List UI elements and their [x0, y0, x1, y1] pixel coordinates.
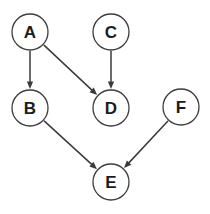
graph-edge-a-to-d [44, 45, 97, 95]
graph-node-c[interactable]: C [93, 14, 129, 50]
graph-node-d[interactable]: D [93, 90, 129, 126]
node-label-f: F [176, 98, 186, 117]
graph-node-e[interactable]: E [93, 164, 129, 200]
graph-edge-c-to-d [108, 52, 114, 90]
node-label-c: C [105, 23, 117, 42]
node-label-b: B [24, 99, 36, 118]
graph-edge-a-to-b [27, 52, 33, 90]
graph-diagram: ACBDFE [0, 0, 210, 214]
arrowhead-icon [108, 82, 114, 90]
graph-edge-b-to-e [44, 121, 97, 169]
graph-node-a[interactable]: A [12, 14, 48, 50]
node-layer: ACBDFE [12, 14, 199, 200]
graph-edge-f-to-e [124, 121, 168, 168]
graph-canvas: ACBDFE [0, 0, 210, 214]
graph-node-f[interactable]: F [163, 89, 199, 125]
node-label-e: E [105, 173, 116, 192]
node-label-a: A [24, 23, 36, 42]
arrowhead-icon [27, 82, 33, 90]
node-label-d: D [105, 99, 117, 118]
graph-node-b[interactable]: B [12, 90, 48, 126]
